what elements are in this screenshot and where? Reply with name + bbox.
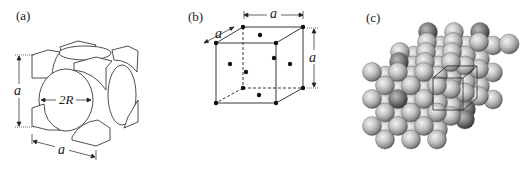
- edge-a-vertical: a: [14, 83, 21, 98]
- corner-atom: [301, 25, 305, 29]
- corner-atom: [214, 41, 218, 45]
- atom-sphere: [499, 34, 519, 54]
- sphere-diameter-label: 2R: [59, 92, 74, 107]
- atom-sphere: [428, 130, 447, 149]
- panel-b: (b): [180, 0, 350, 186]
- face-center-atom-left: [228, 62, 232, 66]
- atom-sphere: [376, 130, 395, 149]
- panel-a: (a): [0, 0, 180, 186]
- face-center-atom-right: [288, 62, 292, 66]
- face-center-atom-bottom: [257, 93, 261, 97]
- edge-a-top: a: [270, 6, 277, 21]
- corner-atom: [241, 86, 245, 90]
- corner-atom: [274, 41, 278, 45]
- corner-atom: [214, 101, 218, 105]
- corner-atom: [274, 101, 278, 105]
- face-center-atom-top: [258, 33, 262, 37]
- edge-a-horizontal: a: [58, 142, 65, 157]
- face-center-atom-back: [244, 70, 248, 74]
- fcc-reduced-sphere-cell: a a a: [180, 0, 350, 186]
- atom-sphere: [402, 130, 421, 149]
- fcc-atom-aggregate: [350, 0, 529, 186]
- fcc-hard-sphere-cell: 2R a a: [0, 0, 180, 186]
- corner-atom: [241, 25, 245, 29]
- face-center-atom-front: [272, 56, 276, 60]
- corner-atom: [301, 86, 305, 90]
- panel-c: (c): [350, 0, 529, 186]
- edge-a-depth: a: [215, 26, 222, 41]
- edge-a-right: a: [309, 50, 316, 65]
